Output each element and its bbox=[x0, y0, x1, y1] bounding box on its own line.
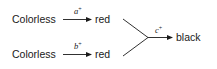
node-black: black bbox=[176, 31, 201, 43]
node-red-bottom: red bbox=[95, 48, 110, 60]
converge-line-bottom bbox=[123, 38, 148, 57]
enzyme-a-sup: + bbox=[78, 6, 81, 12]
node-red-top: red bbox=[95, 13, 110, 25]
enzyme-label-b: b+ bbox=[74, 39, 82, 51]
enzyme-label-a: a+ bbox=[74, 4, 82, 16]
node-colorless-bottom: Colorless bbox=[12, 48, 56, 60]
converge-line-top bbox=[123, 19, 148, 38]
node-colorless-top: Colorless bbox=[12, 13, 56, 25]
enzyme-c-sup: + bbox=[159, 25, 162, 31]
enzyme-label-c: c+ bbox=[155, 23, 162, 35]
enzyme-b-sup: + bbox=[78, 41, 81, 47]
